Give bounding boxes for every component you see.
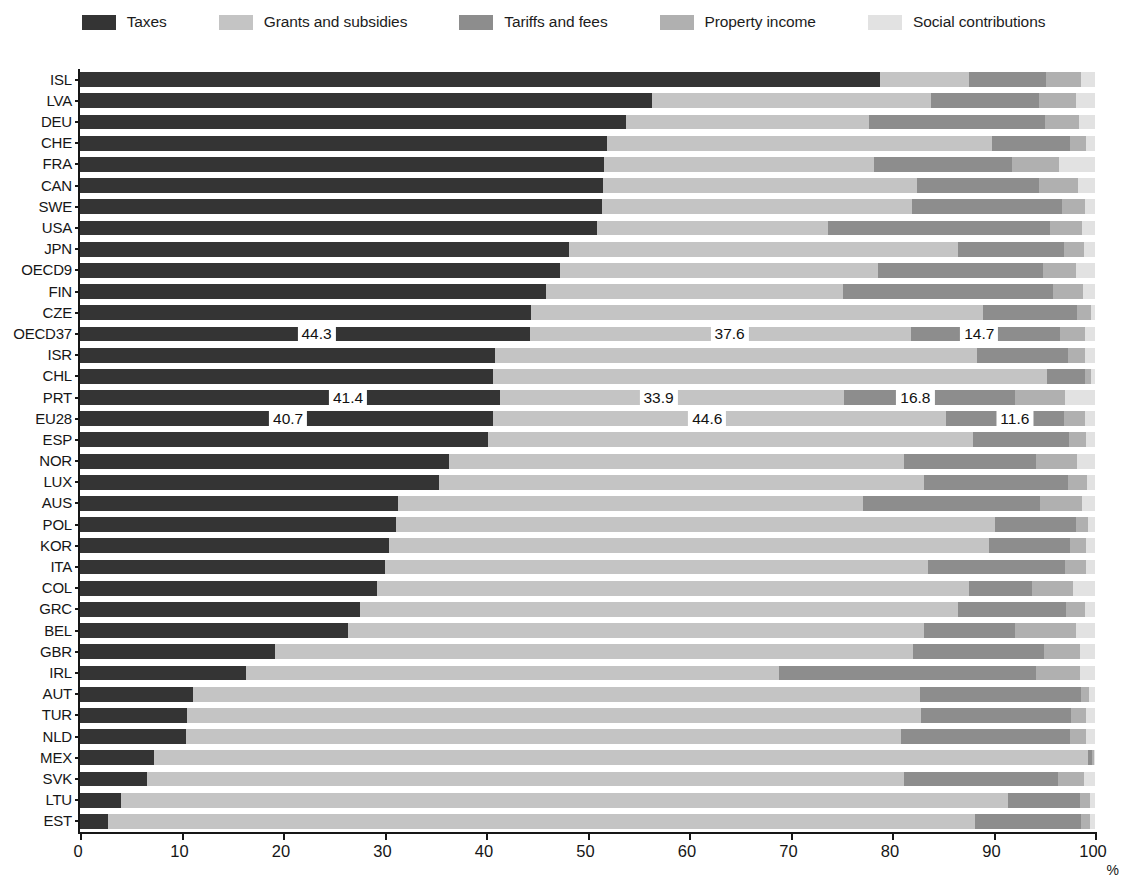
x-axis-label-80: 80: [881, 842, 899, 861]
y-axis-label-ita: ITA: [50, 559, 72, 574]
bar-segment-property-income: [1015, 623, 1076, 638]
bar-segment-grants-and-subsidies: [154, 750, 1088, 765]
bar-segment-grants-and-subsidies: [398, 496, 863, 511]
y-axis-tick: [75, 79, 80, 81]
legend-swatch-grants: [219, 15, 253, 30]
bar-segment-taxes: [80, 221, 597, 236]
x-axis-tick: [385, 832, 387, 840]
y-axis-label-grc: GRC: [39, 601, 72, 616]
legend-item-2: Tariffs and fees: [459, 13, 607, 31]
bar-segment-social-contributions: [1087, 475, 1095, 490]
bar-segment-tariffs-and-fees: [904, 772, 1058, 787]
y-axis-tick: [75, 269, 80, 271]
bar-segment-social-contributions: [1084, 242, 1095, 257]
bar-segment-property-income: [1032, 581, 1073, 596]
legend-swatch-social: [868, 15, 902, 30]
legend-swatch-taxes: [82, 15, 116, 30]
x-axis-tick: [182, 832, 184, 840]
bar-segment-social-contributions: [1090, 814, 1095, 829]
bar-segment-grants-and-subsidies: [246, 666, 779, 681]
value-label-oecd37-0: 44.3: [297, 325, 335, 342]
x-axis-label-40: 40: [475, 842, 493, 861]
bar-segment-property-income: [1068, 348, 1085, 363]
bar-segment-taxes: [80, 157, 604, 172]
bar-segment-social-contributions: [1088, 517, 1095, 532]
y-axis-tick: [75, 291, 80, 293]
bar-segment-property-income: [1044, 644, 1080, 659]
bar-segment-property-income: [1053, 284, 1082, 299]
bar-segment-grants-and-subsidies: [275, 644, 913, 659]
bar-row-che: [80, 136, 1095, 151]
y-axis-label-col: COL: [42, 580, 72, 595]
bar-segment-taxes: [80, 687, 193, 702]
y-axis-tick: [75, 757, 80, 759]
y-axis-tick: [75, 206, 80, 208]
bar-segment-property-income: [1015, 390, 1065, 405]
bar-segment-tariffs-and-fees: [924, 475, 1067, 490]
bar-row-pol: [80, 517, 1095, 532]
bar-segment-social-contributions: [1076, 93, 1095, 108]
bar-segment-taxes: [80, 136, 607, 151]
x-axis-tick: [283, 832, 285, 840]
bar-segment-social-contributions: [1086, 432, 1095, 447]
bar-segment-taxes: [80, 115, 626, 130]
x-axis-label-60: 60: [678, 842, 696, 861]
bar-segment-taxes: [80, 432, 488, 447]
bar-row-fra: [80, 157, 1095, 172]
bar-segment-tariffs-and-fees: [1047, 369, 1085, 384]
bar-segment-grants-and-subsidies: [652, 93, 930, 108]
x-axis-label-0: 0: [73, 842, 82, 861]
bar-segment-grants-and-subsidies: [569, 242, 958, 257]
bar-segment-social-contributions: [1094, 750, 1095, 765]
bar-segment-taxes: [80, 242, 569, 257]
y-axis-label-bel: BEL: [44, 623, 72, 638]
bar-segment-taxes: [80, 538, 389, 553]
bar-segment-tariffs-and-fees: [992, 136, 1069, 151]
bar-segment-property-income: [1080, 793, 1090, 808]
bar-segment-social-contributions: [1079, 115, 1095, 130]
bar-row-mex: [80, 750, 1095, 765]
bar-segment-grants-and-subsidies: [493, 369, 1047, 384]
bar-segment-social-contributions: [1085, 602, 1095, 617]
y-axis-tick: [75, 630, 80, 632]
value-label-prt-4: 33.9: [639, 389, 677, 406]
y-axis-label-deu: DEU: [41, 114, 72, 129]
bar-segment-social-contributions: [1091, 305, 1095, 320]
bar-segment-taxes: [80, 750, 154, 765]
bar-segment-property-income: [1081, 687, 1089, 702]
y-axis-label-gbr: GBR: [40, 644, 72, 659]
bar-segment-grants-and-subsidies: [560, 263, 878, 278]
bar-segment-social-contributions: [1085, 327, 1095, 342]
bar-segment-tariffs-and-fees: [989, 538, 1069, 553]
bar-row-gbr: [80, 644, 1095, 659]
bar-segment-grants-and-subsidies: [449, 454, 904, 469]
bar-segment-property-income: [1062, 199, 1085, 214]
bar-segment-tariffs-and-fees: [843, 284, 1053, 299]
bar-segment-taxes: [80, 305, 531, 320]
bar-segment-property-income: [1064, 242, 1084, 257]
bar-row-isl: [80, 72, 1095, 87]
bar-segment-property-income: [1012, 157, 1060, 172]
bar-segment-grants-and-subsidies: [546, 284, 843, 299]
legend-item-3: Property income: [660, 13, 816, 31]
bar-segment-property-income: [1036, 666, 1080, 681]
y-axis-tick: [75, 100, 80, 102]
legend-item-4: Social contributions: [868, 13, 1045, 31]
y-axis-tick: [75, 460, 80, 462]
bar-segment-grants-and-subsidies: [377, 581, 969, 596]
bar-segment-social-contributions: [1090, 793, 1095, 808]
value-label-oecd37-1: 37.6: [711, 325, 749, 342]
bar-segment-social-contributions: [1091, 369, 1095, 384]
bar-row-est: [80, 814, 1095, 829]
legend-item-0: Taxes: [82, 13, 167, 31]
bar-segment-tariffs-and-fees: [901, 729, 1069, 744]
y-axis-tick: [75, 439, 80, 441]
bar-segment-social-contributions: [1081, 72, 1095, 87]
legend-label: Taxes: [127, 13, 167, 31]
bar-segment-grants-and-subsidies: [389, 538, 990, 553]
y-axis-label-nor: NOR: [39, 453, 72, 468]
bar-segment-grants-and-subsidies: [348, 623, 925, 638]
bar-row-eu28: [80, 411, 1095, 426]
bar-row-oecd9: [80, 263, 1095, 278]
y-axis-label-tur: TUR: [42, 707, 72, 722]
